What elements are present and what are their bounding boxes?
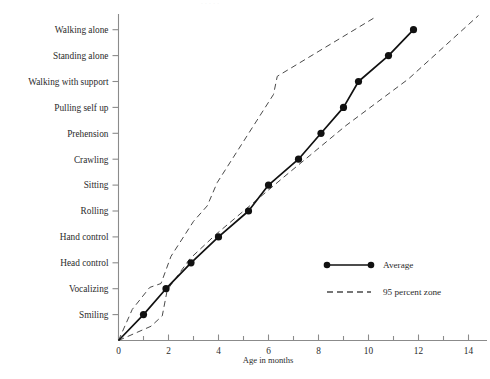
y-axis-tick-label-head-control: Head control [60,258,109,268]
x-axis-tick-label-8: 8 [316,346,321,356]
chart-figure: · · · · · SmilingVocalizingHead controlH… [0,0,490,379]
x-axis-tick-label-0: 0 [116,346,121,356]
average-marker-head-control [187,259,194,266]
average-marker-hand-control [215,233,222,240]
x-axis-tick-label-14: 14 [464,346,474,356]
y-axis-tick-label-vocalizing: Vocalizing [69,284,109,294]
y-axis-tick-label-pulling-self-up: Pulling self up [54,103,109,113]
y-axis-tick-label-crawling: Crawling [74,155,109,165]
average-marker-prehension [317,130,324,137]
average-marker-walking-alone [410,26,417,33]
average-marker-rolling [245,207,252,214]
x-axis-title: Age in months [243,355,294,365]
y-axis-tick-label-walking-alone: Walking alone [55,25,109,35]
x-axis-tick-label-4: 4 [216,346,221,356]
average-data-markers [140,26,417,318]
y-axis-tick-label-hand-control: Hand control [60,232,109,242]
average-marker-crawling [295,156,302,163]
legend-label-average: Average [383,260,413,270]
average-marker-sitting [265,182,272,189]
x-axis-tick-label-10: 10 [364,346,374,356]
y-axis-tick-label-walking-with-support: Walking with support [28,77,109,87]
y-axis-tick-label-rolling: Rolling [81,206,109,216]
average-marker-smiling [140,311,147,318]
x-axis-label-group: 02468101214 [116,346,473,356]
y-axis-label-group: SmilingVocalizingHead controlHand contro… [28,25,109,320]
legend-swatch-average-dot-left [324,262,331,269]
cropped-caption-fragment: · · · · · [201,0,220,8]
legend-label-zone: 95 percent zone [383,287,441,297]
y-axis-tick-label-sitting: Sitting [84,180,109,190]
average-marker-standing-alone [385,52,392,59]
average-marker-pulling-self-up [340,104,347,111]
x-axis-tick-label-12: 12 [414,346,424,356]
x-axis-tick-label-2: 2 [166,346,171,356]
x-axis-tick-group [119,335,469,341]
average-marker-walking-with-support [355,78,362,85]
y-axis-tick-group [113,30,119,315]
average-marker-vocalizing [162,285,169,292]
y-axis-tick-label-smiling: Smiling [79,310,109,320]
chart-legend: Average95 percent zone [324,260,441,297]
legend-swatch-average-dot-right [368,262,375,269]
baby-milestones-line-chart: · · · · · SmilingVocalizingHead controlH… [0,0,490,379]
y-axis-tick-label-prehension: Prehension [67,129,109,139]
y-axis-tick-label-standing-alone: Standing alone [53,51,109,61]
